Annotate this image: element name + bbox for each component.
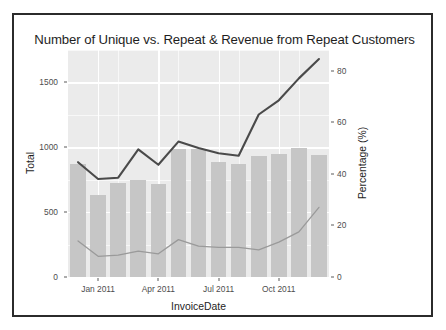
y-axis-left-tick-label: 0 (53, 272, 58, 282)
x-axis-tick-mark (278, 278, 279, 281)
x-axis-tick-mark (218, 278, 219, 281)
y-axis-right-tick-label: 40 (337, 169, 346, 179)
y-axis-left-tick-mark (64, 147, 67, 148)
y-axis-right-tick-mark (331, 70, 334, 71)
chart-title: Number of Unique vs. Repeat & Revenue fr… (14, 32, 435, 47)
screenshot-root: Number of Unique vs. Repeat & Revenue fr… (0, 0, 446, 330)
figure-frame: Number of Unique vs. Repeat & Revenue fr… (12, 13, 433, 317)
y-axis-right-tick-mark (331, 277, 334, 278)
y-axis-right-tick-mark (331, 122, 334, 123)
y-axis-right-tick-label: 0 (337, 272, 342, 282)
x-axis-tick-label: Jan 2011 (81, 284, 115, 294)
repeat-revenue-line (78, 207, 319, 256)
line-series-layer (68, 50, 329, 277)
x-axis-tick-label: Jul 2011 (203, 284, 234, 294)
y-axis-right-tick-mark (331, 173, 334, 174)
y-axis-left-tick-label: 500 (44, 207, 58, 217)
x-axis-tick-label: Apr 2011 (142, 284, 175, 294)
y-axis-right-tick-label: 80 (337, 66, 346, 76)
x-axis-tick-label: Oct 2011 (262, 284, 295, 294)
y-axis-title-right: Percentage (%) (357, 127, 368, 199)
y-axis-right-tick-label: 60 (337, 117, 346, 127)
x-axis-tick-mark (158, 278, 159, 281)
y-axis-left-tick-label: 1000 (39, 142, 58, 152)
plot-panel (68, 50, 329, 277)
y-axis-left-tick-label: 1500 (39, 77, 58, 87)
y-axis-left-tick-mark (64, 277, 67, 278)
y-axis-title-left: Total (25, 152, 36, 174)
repeat-customer-line (78, 59, 319, 179)
y-axis-right-tick-label: 20 (337, 220, 346, 230)
y-axis-left-tick-mark (64, 212, 67, 213)
x-axis-tick-mark (98, 278, 99, 281)
x-axis-title: InvoiceDate (68, 301, 329, 312)
y-axis-left-tick-mark (64, 82, 67, 83)
y-axis-right-tick-mark (331, 225, 334, 226)
